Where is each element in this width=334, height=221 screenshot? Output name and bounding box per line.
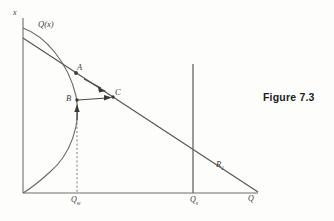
arrow-b-to-c <box>78 98 107 100</box>
qx-curve <box>23 28 78 193</box>
figure-container: x Q(x) A B C R1 Qw Qs Q Figure 7.3 <box>0 0 334 221</box>
figure-drawing <box>0 0 334 221</box>
qw-axis-label: Qw <box>71 196 81 206</box>
r1-line-label: R1 <box>216 160 224 171</box>
qs-label-subscript: s <box>196 200 198 206</box>
arrow-head-b <box>74 104 79 112</box>
point-b-dot <box>75 98 78 101</box>
qw-label-subscript: w <box>77 200 81 206</box>
point-c-label: C <box>115 88 121 97</box>
x-axis-label: Q <box>248 195 254 203</box>
y-axis-label: x <box>13 9 17 17</box>
r1-label-subscript: 1 <box>221 165 224 171</box>
figure-caption: Figure 7.3 <box>263 91 315 103</box>
qs-axis-label: Qs <box>190 196 198 206</box>
arrow-along-r1 <box>84 79 101 88</box>
qx-curve-label: Q(x) <box>38 20 54 29</box>
point-a-label: A <box>77 63 82 72</box>
point-b-label: B <box>66 94 71 103</box>
